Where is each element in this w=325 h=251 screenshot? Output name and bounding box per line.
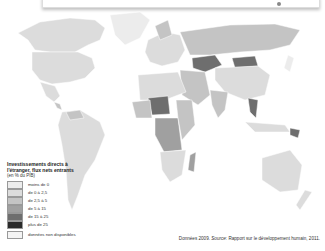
region-southern-africa xyxy=(160,150,186,182)
region-russia xyxy=(180,24,300,55)
legend-item: de 15 à 25 xyxy=(7,213,77,221)
legend-swatch xyxy=(7,231,23,239)
legend-swatch xyxy=(7,197,23,205)
region-japan xyxy=(284,55,294,72)
legend-item: données non disponibles xyxy=(7,229,77,241)
region-north-africa xyxy=(138,72,186,100)
region-indonesia xyxy=(245,122,290,132)
region-canada xyxy=(18,18,105,52)
region-png xyxy=(290,128,300,138)
legend-swatch xyxy=(7,221,23,229)
region-madagascar xyxy=(188,152,196,172)
region-usa xyxy=(32,52,95,84)
region-mexico xyxy=(40,82,60,102)
region-west-africa xyxy=(132,100,152,118)
legend-item: plus de 25 xyxy=(7,221,77,229)
source-note: Données 2009. Source: Rapport sur le dév… xyxy=(179,236,320,241)
legend-swatch xyxy=(7,189,23,197)
legend-swatch xyxy=(7,205,23,213)
region-central-africa xyxy=(155,118,182,152)
legend-title: Investissements directs à l'étranger, fl… xyxy=(7,162,77,173)
region-new-zealand xyxy=(296,190,312,210)
legend-subtitle: (en % du PIB) xyxy=(7,173,77,179)
region-southeast-asia xyxy=(248,98,258,118)
legend-swatch xyxy=(7,181,23,189)
region-australia xyxy=(262,150,302,192)
legend-swatch xyxy=(7,213,23,221)
map-legend: Investissements directs à l'étranger, fl… xyxy=(7,162,77,241)
region-greenland xyxy=(110,12,150,45)
region-india xyxy=(210,90,228,118)
legend-item: moins de 0 xyxy=(7,181,77,189)
legend-item: de 5 à 15 xyxy=(7,205,77,213)
legend-item: de 2,5 à 5 xyxy=(7,197,77,205)
legend-item: de 0 à 2,5 xyxy=(7,189,77,197)
region-central-america xyxy=(54,102,62,110)
